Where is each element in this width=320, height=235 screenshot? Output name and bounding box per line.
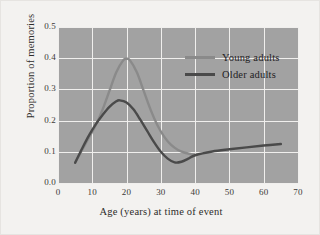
x-axis-tick-label: 50 [214,188,244,197]
series-line-older-adults [75,100,281,162]
gridline-vertical [298,27,299,183]
legend-label-young-adults: Young adults [222,52,280,63]
x-axis-tick-label: 60 [249,188,279,197]
chart-legend: Young adults Older adults [185,50,293,84]
legend-label-older-adults: Older adults [222,69,276,80]
legend-swatch-young-adults [185,56,215,59]
y-axis-label-wrapper: Proportion of memories [20,0,34,136]
gridline-horizontal [58,183,298,184]
chart-figure: Young adults Older adults 0.00.10.20.30.… [0,0,320,235]
x-axis-tick-label: 10 [77,188,107,197]
legend-swatch-older-adults [185,73,215,76]
x-axis-label: Age (years) at time of event [1,206,320,217]
x-axis-tick-label: 0 [43,188,73,197]
y-axis-tick-label: 0.0 [8,178,56,187]
x-axis-tick-label: 20 [112,188,142,197]
plot-area: Young adults Older adults [58,27,298,183]
legend-item-young-adults: Young adults [185,50,293,64]
x-axis-ticks: 010203040506070 [1,188,320,202]
y-axis-label: Proportion of memories [25,14,36,119]
x-axis-tick-label: 70 [283,188,313,197]
legend-item-older-adults: Older adults [185,67,293,81]
x-axis-tick-label: 30 [146,188,176,197]
x-axis-tick-label: 40 [180,188,210,197]
y-axis-tick-label: 0.1 [8,147,56,156]
